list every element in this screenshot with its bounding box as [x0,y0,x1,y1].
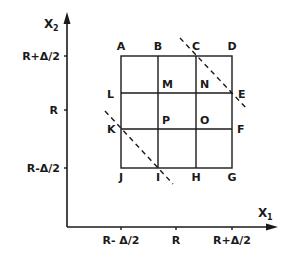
x-tick-label-mid: R [172,234,181,247]
point-labels: A B C D E F G H I J K L M N O P [107,40,246,184]
point-label-p: P [162,114,170,127]
point-label-a: A [117,40,126,53]
grid-outer-square [121,56,232,168]
point-label-g: G [227,171,236,184]
grid [121,56,232,168]
point-label-k: K [107,123,116,136]
y-axis-arrow-icon [64,12,71,24]
x-tick-label-left: R- Δ/2 [102,234,139,247]
grid-diagram: X 2 X 1 R+Δ/2 R R-Δ/2 R- Δ/2 R R+Δ/2 A B… [0,0,285,257]
y-tick-label-top: R+Δ/2 [22,50,60,63]
point-label-b: B [154,40,162,53]
x-axis-label: X 1 [258,206,273,222]
x-tick-label-right: R+Δ/2 [213,234,251,247]
x-axis-label-subscript: 1 [267,213,273,222]
point-label-o: O [200,114,209,127]
y-tick-label-mid: R [50,104,59,117]
y-axis-label-subscript: 2 [53,24,59,33]
y-tick-label-bottom: R-Δ/2 [27,162,60,175]
point-label-d: D [227,40,236,53]
point-label-n: N [200,78,209,91]
point-label-c: C [192,40,200,53]
point-label-m: M [162,78,173,91]
point-label-f: F [237,123,245,136]
x-axis-arrow-icon [266,224,278,231]
point-label-j: J [118,171,123,184]
y-axis-label: X 2 [44,17,59,33]
point-label-h: H [191,171,200,184]
point-label-e: E [238,88,246,101]
point-label-l: L [107,88,114,101]
point-label-i: I [156,171,160,184]
